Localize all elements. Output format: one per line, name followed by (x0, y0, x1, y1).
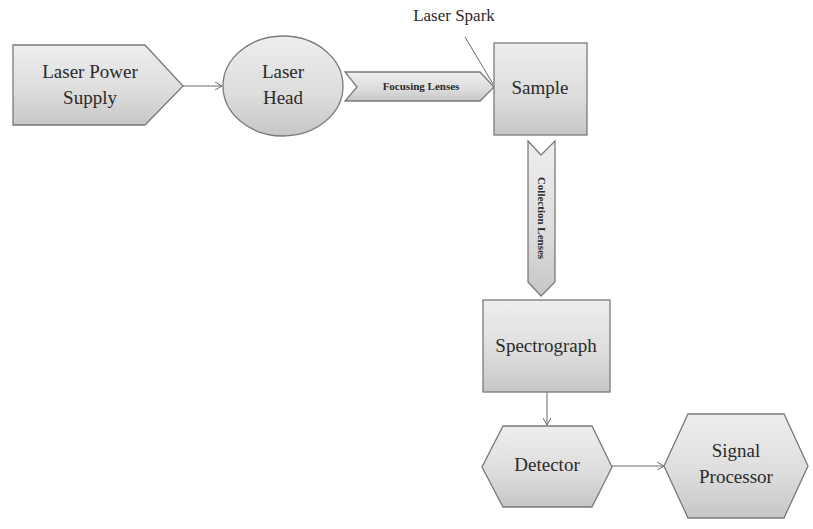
node-sample: Sample (494, 43, 587, 135)
connector-focusing-lenses: Focusing Lenses (345, 72, 494, 101)
sample-label: Sample (512, 77, 569, 98)
node-laser-power-supply: Laser Power Supply (13, 45, 183, 125)
collection-lenses-label: Collection Lenses (536, 177, 548, 260)
laser-power-supply-label-2: Supply (63, 87, 117, 108)
laser-head-label-1: Laser (262, 61, 305, 82)
spectrograph-label: Spectrograph (495, 335, 597, 356)
node-laser-head: Laser Head (223, 36, 343, 136)
laser-spark-label: Laser Spark (413, 6, 495, 25)
laser-head-label-2: Head (263, 87, 304, 108)
detector-label: Detector (514, 454, 580, 475)
signal-processor-label-2: Processor (699, 466, 774, 487)
connector-collection-lenses: Collection Lenses (528, 141, 555, 296)
node-spectrograph: Spectrograph (483, 300, 610, 392)
signal-processor-label-1: Signal (712, 440, 761, 461)
diagram-svg: Laser Power Supply Laser Head Focusing L… (0, 0, 813, 529)
laser-power-supply-shape (13, 45, 183, 125)
node-signal-processor: Signal Processor (664, 414, 808, 518)
diagram-canvas: Laser Power Supply Laser Head Focusing L… (0, 0, 813, 529)
laser-head-shape (223, 36, 343, 136)
node-detector: Detector (482, 426, 612, 507)
focusing-lenses-label: Focusing Lenses (383, 80, 460, 92)
laser-power-supply-label-1: Laser Power (42, 61, 138, 82)
